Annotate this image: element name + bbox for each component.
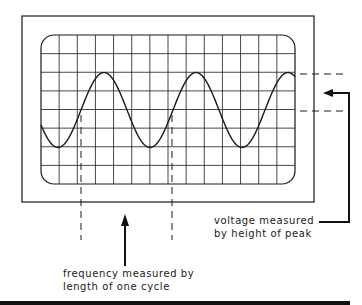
voltage-label-line1: voltage measured — [214, 215, 314, 227]
voltage-label-line2: by height of peak — [214, 228, 312, 240]
screen-grid — [41, 35, 295, 184]
oscilloscope-diagram — [0, 0, 362, 305]
voltage-arrow-icon — [319, 89, 349, 222]
frequency-label-line1: frequency measured by — [63, 268, 194, 280]
frequency-label-line2: length of one cycle — [63, 281, 170, 293]
frequency-arrow-icon — [121, 214, 129, 266]
oscilloscope-screen — [41, 35, 295, 184]
bottom-divider-bar — [0, 301, 350, 305]
